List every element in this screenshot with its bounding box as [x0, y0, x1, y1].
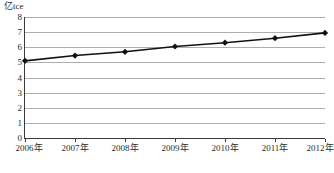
x-axis-tick-label: 2010年 — [212, 143, 239, 153]
gridline — [25, 123, 325, 124]
gridline — [25, 108, 325, 109]
gridline — [25, 93, 325, 94]
x-axis-tick-label: 2007年 — [62, 143, 89, 153]
y-axis-line — [24, 17, 25, 139]
x-axis-tick-mark — [225, 139, 226, 142]
y-axis-tick-label: 7 — [2, 28, 22, 37]
x-axis-tick-mark — [75, 139, 76, 142]
gridline — [25, 47, 325, 48]
y-axis-tick-label: 8 — [2, 13, 22, 22]
y-axis-tick-label: 0 — [2, 134, 22, 143]
gridline — [25, 78, 325, 79]
gridline — [25, 62, 325, 63]
plot-area — [25, 17, 325, 138]
x-axis-tick-mark — [25, 139, 26, 142]
y-axis-tick-label: 3 — [2, 89, 22, 98]
x-axis-tick-label: 2008年 — [112, 143, 139, 153]
y-axis-tick-label: 6 — [2, 43, 22, 52]
x-axis-tick-label: 2006年 — [16, 143, 43, 153]
x-axis-tick-mark — [275, 139, 276, 142]
x-axis-tick-mark — [325, 139, 326, 142]
gridline — [25, 32, 325, 33]
x-axis-tick-mark — [175, 139, 176, 142]
y-axis-tick-label: 1 — [2, 119, 22, 128]
x-axis-tick-mark — [125, 139, 126, 142]
y-axis-tick-label: 5 — [2, 58, 22, 67]
y-axis-tick-label: 2 — [2, 104, 22, 113]
y-axis-tick-label: 4 — [2, 74, 22, 83]
x-axis-tick-label: 2011年 — [262, 143, 289, 153]
x-axis-tick-label: 2009年 — [162, 143, 189, 153]
line-chart: 亿tce 876543210 2006年2007年2008年2009年2010年… — [0, 0, 334, 173]
x-axis-tick-label: 2012年 — [307, 143, 334, 153]
gridline — [25, 17, 325, 18]
